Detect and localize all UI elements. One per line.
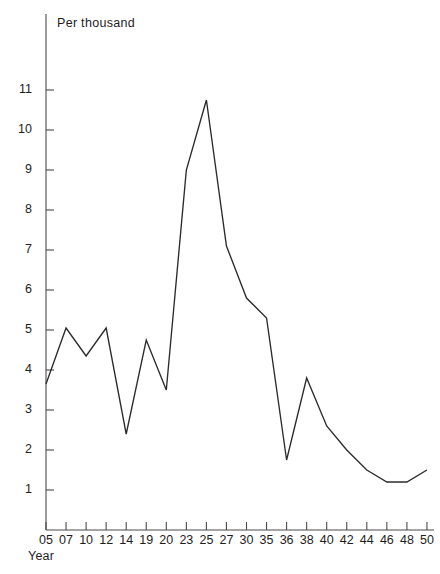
y-tick-label: 5	[8, 322, 32, 336]
line-chart-plot	[0, 0, 440, 574]
y-tick-label: 8	[8, 202, 32, 216]
y-tick-label: 3	[8, 402, 32, 416]
x-axis-label: Year	[28, 549, 54, 563]
data-series-line	[46, 100, 427, 482]
x-axis-ticks	[46, 522, 427, 530]
y-axis-ticks	[46, 90, 54, 490]
y-tick-label: 4	[8, 362, 32, 376]
y-tick-label: 11	[8, 82, 32, 96]
y-tick-label: 10	[8, 122, 32, 136]
y-tick-label: 6	[8, 282, 32, 296]
y-axis-unit-label: Per thousand	[57, 16, 135, 30]
x-tick-label: 50	[415, 533, 439, 547]
y-tick-label: 2	[8, 442, 32, 456]
y-tick-label: 1	[8, 482, 32, 496]
chart-figure: Per thousand Year 1234567891011 05071012…	[0, 0, 440, 574]
y-tick-label: 9	[8, 162, 32, 176]
y-tick-label: 7	[8, 242, 32, 256]
